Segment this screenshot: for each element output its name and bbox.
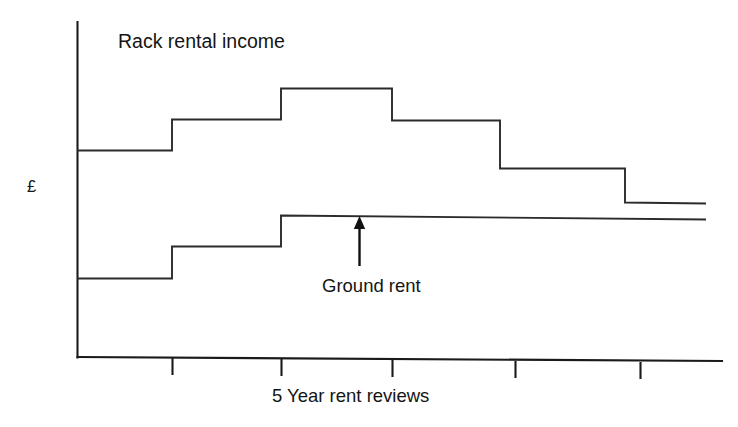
x-axis xyxy=(78,357,723,361)
ground-rent-callout-arrow-head xyxy=(354,216,365,229)
chart-canvas: Rack rental income Ground rent 5 Year re… xyxy=(0,0,738,427)
y-axis-label: £ xyxy=(27,177,36,195)
x-axis-label: 5 Year rent reviews xyxy=(272,385,429,406)
series-line-rack-rental-income xyxy=(77,89,706,204)
series-label-rack-rental-income: Rack rental income xyxy=(118,30,285,52)
chart-figure: Rack rental income Ground rent 5 Year re… xyxy=(0,0,738,427)
series-line-ground-rent xyxy=(77,216,706,279)
annotation-label-ground-rent: Ground rent xyxy=(322,275,421,296)
